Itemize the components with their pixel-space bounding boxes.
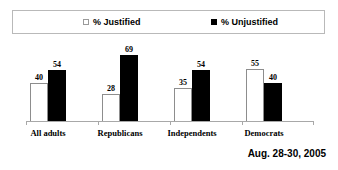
bar-unjustified[interactable] (192, 70, 210, 121)
bar-pair: 4054 (30, 45, 66, 121)
bar-justified[interactable] (246, 69, 264, 121)
bar-unjustified[interactable] (48, 70, 66, 121)
bar-column[interactable]: 69 (120, 45, 138, 121)
bar-value-label: 54 (197, 60, 205, 69)
bar-unjustified[interactable] (264, 83, 282, 121)
legend-item-justified: % Justified (83, 17, 141, 27)
bar-value-label: 55 (251, 59, 259, 68)
bar-column[interactable]: 35 (174, 45, 192, 121)
bar-value-label: 40 (269, 73, 277, 82)
bar-column[interactable]: 40 (264, 45, 282, 121)
bar-value-label: 35 (179, 78, 187, 87)
axis-tick (313, 122, 314, 125)
bar-column[interactable]: 40 (30, 45, 48, 121)
survey-date-stamp: Aug. 28-30, 2005 (248, 148, 326, 159)
legend-item-unjustified: % Unjustified (211, 17, 278, 27)
bar-justified[interactable] (30, 83, 48, 121)
legend-label-unjustified: % Unjustified (221, 17, 278, 27)
bar-pair: 5540 (246, 45, 282, 121)
bar-column[interactable]: 28 (102, 45, 120, 121)
open-square-icon (83, 19, 89, 25)
bar-group: 3554 (174, 45, 246, 121)
bar-value-label: 28 (107, 84, 115, 93)
bar-pair: 3554 (174, 45, 210, 121)
bar-unjustified[interactable] (120, 55, 138, 121)
bar-value-label: 69 (125, 45, 133, 54)
bar-column[interactable]: 54 (48, 45, 66, 121)
bar-justified[interactable] (174, 88, 192, 121)
bar-value-label: 54 (53, 60, 61, 69)
bar-column[interactable]: 55 (246, 45, 264, 121)
bar-group: 5540 (246, 45, 318, 121)
category-label: Democrats (221, 128, 307, 138)
axis-tick (26, 122, 27, 125)
bar-group: 4054 (30, 45, 102, 121)
bar-column[interactable]: 54 (192, 45, 210, 121)
legend-label-justified: % Justified (93, 17, 141, 27)
chart-legend: % Justified % Unjustified (12, 10, 325, 34)
filled-square-icon (211, 19, 217, 25)
axis-tick (170, 122, 171, 125)
bar-justified[interactable] (102, 94, 120, 121)
legend-row: % Justified % Unjustified (13, 11, 324, 33)
bar-pair: 2869 (102, 45, 138, 121)
bar-chart-plot: 4054286935545540 All adultsRepublicansIn… (0, 40, 338, 126)
axis-tick (242, 122, 243, 125)
bar-group: 2869 (102, 45, 174, 121)
axis-tick (98, 122, 99, 125)
bar-value-label: 40 (35, 73, 43, 82)
